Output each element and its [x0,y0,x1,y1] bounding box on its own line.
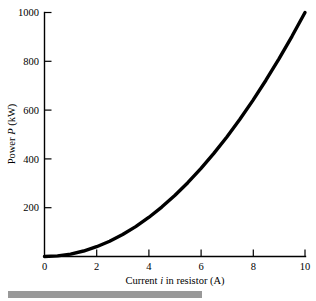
x-tick-label-4: 4 [146,261,152,272]
y-tick-label-1000: 1000 [18,7,39,18]
y-tick-label-200: 200 [23,202,39,213]
x-tick-label-6: 6 [198,261,203,272]
x-tick-labels: 0 2 4 6 8 10 [42,261,310,272]
y-axis-title-after: (kW) [6,103,18,128]
y-tick-labels: 1000 800 600 400 200 [18,7,39,213]
footer-gray-bar [8,291,202,298]
x-tick-label-10: 10 [300,261,311,272]
x-tick-label-8: 8 [251,261,256,272]
y-tick-label-400: 400 [23,154,39,165]
y-tick-label-600: 600 [23,105,39,116]
y-axis-title-before: Power [6,135,17,164]
figure-container: 1000 800 600 400 200 0 2 4 6 8 10 Curren… [0,0,316,301]
x-axis-title: Current i in resistor (A) [125,275,225,287]
x-tick-label-0: 0 [42,261,47,272]
y-tick-label-800: 800 [23,56,39,67]
axes-group [45,13,306,257]
x-axis-title-before: Current [125,275,160,286]
y-axis-title: Power P (kW) [6,103,18,164]
y-tick-marks [45,13,52,208]
x-tick-marks [97,250,305,257]
power-vs-current-chart: 1000 800 600 400 200 0 2 4 6 8 10 Curren… [0,0,316,301]
power-curve [45,13,306,257]
x-tick-label-2: 2 [94,261,99,272]
x-axis-title-after: in resistor (A) [163,275,225,287]
